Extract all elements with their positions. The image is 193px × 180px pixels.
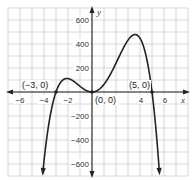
curve-left-arrow-icon (41, 168, 46, 176)
x-tick-label: 6 (163, 96, 168, 105)
x-axis-label: x (180, 95, 185, 105)
y-tick-label: 200 (76, 64, 90, 73)
y-tick-labels: 600 400 200 −200 −400 −600 y (69, 7, 101, 169)
x-tick-label: −6 (15, 96, 25, 105)
point-label-5-0: (5, 0) (129, 80, 150, 90)
y-tick-label: −400 (71, 136, 90, 145)
x-axis-right-arrow-icon (183, 90, 190, 95)
curve-right-arrow-icon (156, 168, 161, 176)
curve-end-arrows (41, 168, 162, 176)
x-tick-label: −2 (63, 96, 73, 105)
y-axis-down-arrow-icon (90, 171, 95, 178)
x-axis-left-arrow-icon (6, 90, 13, 95)
x-tick-label: −4 (39, 96, 49, 105)
polynomial-graph: −6 −4 −2 4 6 x 600 400 200 −200 −400 −60… (0, 0, 193, 180)
point-5-0 (150, 90, 154, 94)
y-axis-label: y (96, 7, 101, 17)
y-tick-label: −600 (71, 160, 90, 169)
point-label-neg3-0: (−3, 0) (22, 80, 48, 90)
y-tick-label: −200 (71, 112, 90, 121)
y-tick-label: 400 (76, 40, 90, 49)
y-tick-label: 600 (76, 16, 90, 25)
point-origin (90, 90, 94, 94)
point-label-origin: (0, 0) (95, 95, 116, 105)
point-neg3-0 (54, 90, 58, 94)
x-tick-label: 4 (139, 96, 144, 105)
y-axis-up-arrow-icon (90, 6, 95, 13)
